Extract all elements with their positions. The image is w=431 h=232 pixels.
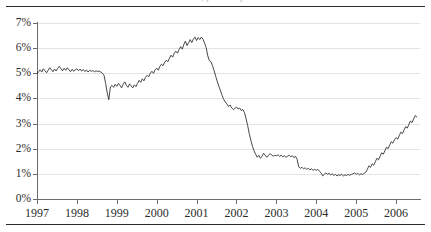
bottom-rule: [6, 224, 425, 225]
y-axis-label: 7%: [3, 17, 31, 29]
y-axis-label: 2%: [3, 143, 31, 155]
series-line: [37, 37, 417, 176]
y-axis-label: 3%: [3, 118, 31, 130]
y-axis-label: 0%: [3, 193, 31, 205]
chart-figure: Interest rates, percent per annum 0%1%2%…: [0, 0, 431, 232]
plot-area: [37, 23, 420, 199]
cut-off-caption: Interest rates, percent per annum: [0, 0, 431, 3]
y-axis-label: 4%: [3, 92, 31, 104]
series-interest-rate: [37, 23, 420, 199]
y-axis-label: 5%: [3, 67, 31, 79]
y-axis-label: 6%: [3, 42, 31, 54]
y-axis-label: 1%: [3, 168, 31, 180]
x-axis-line: [36, 199, 421, 200]
top-rule: [6, 6, 425, 7]
x-axis-label: 2006: [373, 206, 419, 220]
